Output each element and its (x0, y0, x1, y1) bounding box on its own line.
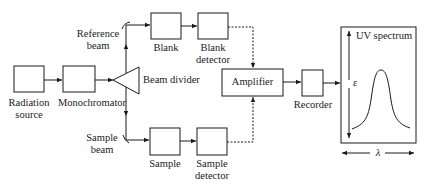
beam-divider-label: Beam divider (143, 74, 200, 86)
sample-detector-box (197, 128, 227, 155)
recorder-label: Recorder (290, 99, 336, 111)
blank-detector-label: Blank detector (190, 42, 236, 66)
dashed-sample-to-amplifier (227, 97, 253, 142)
radiation-source-label-line2: source (3, 109, 55, 121)
sample-beam-label: Sample beam (82, 132, 122, 156)
monochromator-box (63, 66, 95, 92)
sample-beam-label-line2: beam (82, 144, 122, 156)
radiation-source-box (14, 66, 44, 92)
reference-beam-label-line1: Reference (74, 28, 122, 40)
monochromator-label: Monochromator (56, 97, 128, 109)
sample-box (150, 128, 180, 155)
radiation-source-label-line1: Radiation (3, 97, 55, 109)
blank-box (151, 13, 181, 39)
amplifier-label: Amplifier (222, 76, 283, 88)
epsilon-axis-label: ε (350, 77, 360, 89)
recorder-box (302, 70, 323, 96)
sample-beam-label-line1: Sample (82, 132, 122, 144)
sample-detector-label-line1: Sample (189, 158, 235, 170)
sample-label: Sample (144, 158, 186, 170)
blank-detector-label-line2: detector (190, 54, 236, 66)
reference-beam-label-line2: beam (74, 40, 122, 52)
radiation-source-label: Radiation source (3, 97, 55, 121)
blank-detector-label-line1: Blank (190, 42, 236, 54)
blank-label: Blank (146, 42, 186, 54)
sample-detector-label-line2: detector (189, 170, 235, 182)
lambda-axis-label: λ (372, 147, 384, 159)
uv-spectrum-title: UV spectrum (356, 30, 412, 42)
blank-detector-box (198, 13, 228, 39)
sample-detector-label: Sample detector (189, 158, 235, 182)
reference-beam-label: Reference beam (74, 28, 122, 52)
